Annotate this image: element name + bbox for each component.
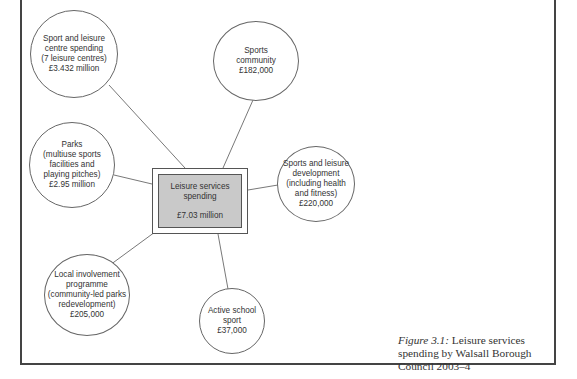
link-sports-community <box>223 100 253 168</box>
figure-caption: Figure 3.1: Leisure services spending by… <box>398 334 554 373</box>
node-local-involvement: Local involvement programme (community-l… <box>44 254 130 336</box>
link-active-school-sport <box>218 234 228 289</box>
figure-label: Figure 3.1: <box>398 334 449 346</box>
node-sports-community: Sports community £182,000 <box>213 21 299 101</box>
node-label: Sports and leisure development (includin… <box>283 159 349 209</box>
center-node-inner: Leisure services spending £7.03 million <box>158 174 242 228</box>
node-sports-leisure-development: Sports and leisure development (includin… <box>277 146 355 222</box>
node-parks: Parks (multiuse sports facilities and pl… <box>29 122 115 208</box>
link-sport-leisure-centre <box>109 85 185 168</box>
node-label: Sport and leisure centre spending (7 lei… <box>41 34 107 74</box>
node-sport-leisure-centre: Sport and leisure centre spending (7 lei… <box>30 10 118 98</box>
center-amount: £7.03 million <box>177 211 223 221</box>
center-title-line2: spending <box>183 192 216 202</box>
link-local-involvement <box>110 232 155 265</box>
center-node-leisure-services: Leisure services spending £7.03 million <box>152 168 248 234</box>
center-title-line1: Leisure services <box>170 182 229 192</box>
node-active-school-sport: Active school sport £37,000 <box>199 288 265 354</box>
node-label: Parks (multiuse sports facilities and pl… <box>43 140 101 190</box>
node-label: Local involvement programme (community-l… <box>48 270 126 320</box>
node-label: Active school sport £37,000 <box>208 306 256 336</box>
link-sports-leisure-development <box>248 185 278 190</box>
node-label: Sports community £182,000 <box>236 46 276 76</box>
link-parks <box>114 175 152 184</box>
